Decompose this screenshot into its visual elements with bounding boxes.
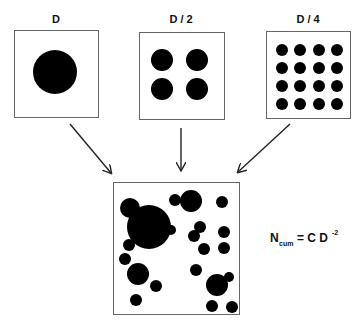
power-law-formula: N cum = C D -2	[270, 229, 338, 247]
formula-exponent: -2	[332, 229, 338, 236]
formula-subscript-cum: cum	[279, 240, 293, 247]
panel-d	[15, 31, 99, 118]
arrow-from-d	[70, 124, 111, 173]
panel-d-half	[140, 33, 225, 120]
formula-n: N	[270, 231, 279, 245]
combined-panel	[114, 183, 240, 315]
panel-label-d: D	[52, 13, 60, 25]
panel-d-quarter	[267, 32, 351, 119]
arrow-from-d-quarter	[238, 124, 290, 172]
circle-size-d	[33, 50, 77, 94]
formula-rhs: = C D	[297, 231, 328, 245]
panel-label-d-quarter: D / 4	[296, 13, 320, 25]
panel-label-d-half: D / 2	[169, 13, 192, 25]
fractal-size-distribution-diagram: D D / 2 D / 4	[0, 0, 359, 328]
